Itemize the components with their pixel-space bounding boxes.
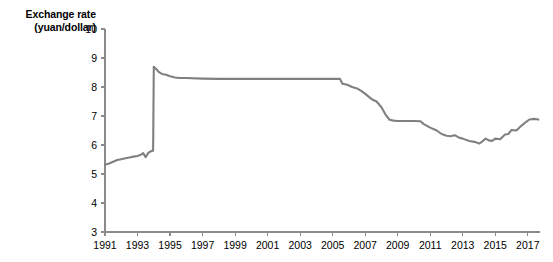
x-tick-label: 2011 bbox=[419, 239, 442, 251]
y-tick-label: 7 bbox=[91, 110, 97, 122]
x-tick-label: 2007 bbox=[354, 239, 378, 251]
y-axis: 345678910 bbox=[85, 23, 105, 238]
x-axis: 1991199319951997199920012003200520072009… bbox=[93, 232, 540, 251]
x-tick-label: 2015 bbox=[484, 239, 508, 251]
y-tick-label: 9 bbox=[91, 52, 97, 64]
x-tick-label: 1995 bbox=[158, 239, 182, 251]
y-tick-label: 5 bbox=[91, 168, 97, 180]
data-series-group bbox=[105, 67, 538, 165]
x-tick-label: 2005 bbox=[321, 239, 345, 251]
x-tick-label: 1997 bbox=[191, 239, 215, 251]
x-tick-label: 1993 bbox=[126, 239, 150, 251]
y-tick-label: 10 bbox=[85, 23, 97, 35]
series-line-exchange-rate bbox=[105, 67, 538, 165]
y-tick-label: 8 bbox=[91, 81, 97, 93]
y-tick-label: 4 bbox=[91, 197, 97, 209]
exchange-rate-chart: Exchange rate (yuan/dollar) 345678910 19… bbox=[0, 0, 553, 262]
x-tick-label: 2003 bbox=[288, 239, 312, 251]
y-tick-label: 6 bbox=[91, 139, 97, 151]
y-tick-label: 3 bbox=[91, 226, 97, 238]
x-tick-label: 2009 bbox=[386, 239, 410, 251]
x-tick-label: 2013 bbox=[451, 239, 475, 251]
x-tick-label: 2001 bbox=[256, 239, 280, 251]
chart-canvas: 345678910 199119931995199719992001200320… bbox=[0, 0, 553, 262]
x-tick-label: 2017 bbox=[516, 239, 540, 251]
x-tick-label: 1999 bbox=[223, 239, 247, 251]
x-tick-label: 1991 bbox=[93, 239, 117, 251]
